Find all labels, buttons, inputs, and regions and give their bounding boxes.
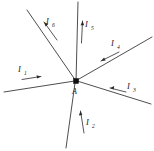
label-i3-subscript: 3: [132, 87, 136, 93]
label-i6: I 6: [45, 16, 55, 28]
label-i6-symbol: I: [45, 16, 50, 26]
label-i4: I 4: [110, 38, 120, 50]
wire-i3: [76, 81, 152, 105]
arrow-i1: [22, 75, 41, 79]
figure-canvas: A I 1 I 2 I 3 I 4 I: [0, 0, 154, 151]
arrow-i5: [81, 21, 85, 43]
label-i2: I 2: [85, 117, 95, 129]
label-i1-subscript: 1: [24, 70, 27, 76]
label-i1-symbol: I: [17, 64, 22, 74]
arrow-i2: [79, 111, 84, 133]
arrow-i4: [101, 52, 119, 61]
label-i4-symbol: I: [110, 38, 115, 48]
label-i2-subscript: 2: [92, 123, 95, 129]
label-i3-symbol: I: [126, 81, 131, 91]
arrow-i3: [110, 86, 126, 92]
label-node-a: A: [71, 87, 77, 96]
label-i5-symbol: I: [84, 19, 89, 29]
label-i3: I 3: [126, 81, 136, 93]
label-i5-subscript: 5: [91, 25, 94, 31]
wire-i5: [76, 2, 78, 82]
label-i1: I 1: [17, 64, 27, 76]
wire-i1: [4, 81, 78, 93]
label-i4-subscript: 4: [117, 44, 120, 50]
junction-node-a: [74, 79, 79, 84]
node-marker: [74, 79, 79, 84]
label-i2-symbol: I: [85, 117, 90, 127]
current-junction-figure: A I 1 I 2 I 3 I 4 I: [0, 0, 154, 151]
label-i6-subscript: 6: [52, 22, 55, 28]
label-i5: I 5: [84, 19, 94, 31]
